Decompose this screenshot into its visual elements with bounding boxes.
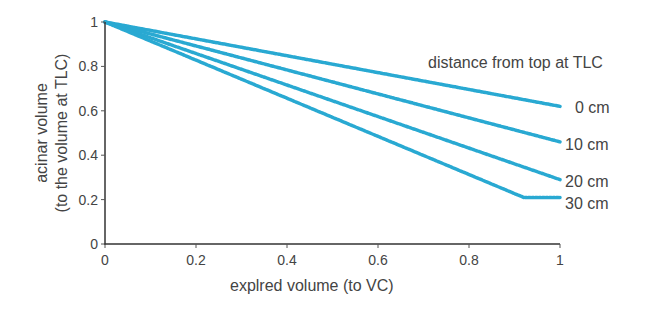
y-tick-label: 0.8 xyxy=(79,58,99,74)
y-tick-label: 0.6 xyxy=(79,103,99,119)
y-axis-label-line2: (to the volume at TLC) xyxy=(52,54,72,213)
series-layer xyxy=(105,22,560,197)
y-tick-label: 1 xyxy=(90,14,98,30)
series-label-20cm: 20 cm xyxy=(565,173,609,191)
series-label-30cm: 30 cm xyxy=(565,195,609,213)
line-chart: 00.20.40.60.8100.20.40.60.81 xyxy=(0,0,668,315)
x-tick-label: 0.6 xyxy=(368,252,388,268)
x-tick-label: 1 xyxy=(556,252,564,268)
series-line-20cm xyxy=(105,22,560,180)
y-tick-label: 0 xyxy=(90,236,98,252)
legend-title: distance from top at TLC xyxy=(428,54,603,72)
series-line-30cm xyxy=(105,22,560,197)
series-line-10cm xyxy=(105,22,560,142)
y-axis-label-line1: acinar volume xyxy=(32,54,52,213)
x-tick-label: 0.8 xyxy=(459,252,479,268)
x-tick-label: 0.4 xyxy=(277,252,297,268)
x-tick-label: 0 xyxy=(101,252,109,268)
y-tick-label: 0.2 xyxy=(79,192,99,208)
series-label-10cm: 10 cm xyxy=(565,136,609,154)
series-label-0cm: 0 cm xyxy=(575,99,610,117)
tick-layer: 00.20.40.60.8100.20.40.60.81 xyxy=(79,14,565,268)
x-axis-label: explred volume (to VC) xyxy=(230,277,394,295)
x-tick-label: 0.2 xyxy=(186,252,206,268)
y-axis-label: acinar volume (to the volume at TLC) xyxy=(32,54,72,213)
y-tick-label: 0.4 xyxy=(79,147,99,163)
